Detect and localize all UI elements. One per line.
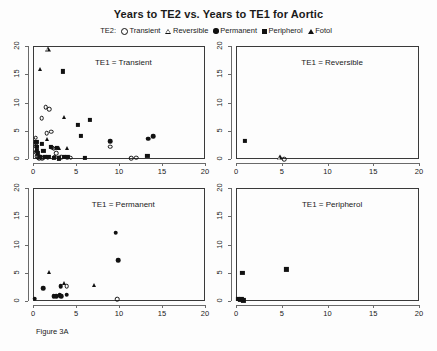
y-tick-label: 20 (215, 39, 224, 53)
x-tick (205, 305, 206, 308)
y-tick-label: 0 (215, 152, 224, 166)
data-point-filled-square-icon (284, 267, 288, 271)
data-point-filled-square-icon (41, 149, 45, 153)
data-point-open-circle-icon (49, 130, 54, 135)
legend-entry-fotol: Fotol (308, 26, 332, 35)
data-point-filled-triangle-icon (45, 137, 49, 141)
x-tick-label: 15 (155, 309, 169, 318)
x-tick-label: 20 (198, 309, 212, 318)
y-tick (25, 46, 28, 47)
x-tick (328, 305, 329, 308)
legend-label-fotol: Fotol (315, 26, 332, 35)
y-tick-label: 5 (215, 123, 224, 137)
legend-entry-reversible: Reversible (165, 26, 208, 35)
x-tick-label: 0 (26, 309, 40, 318)
data-point-filled-triangle-icon (65, 146, 69, 150)
data-point-filled-triangle-icon (92, 283, 96, 287)
x-tick-label: 20 (198, 167, 212, 176)
x-tick-label: 0 (229, 167, 243, 176)
page-title: Years to TE2 vs. Years to TE1 for Aortic (0, 8, 437, 20)
panel-title: TE1 = Transient (85, 58, 162, 67)
data-point-filled-square-icon (240, 271, 244, 275)
x-tick-label: 0 (229, 309, 243, 318)
legend-entry-permanent: Permanent (213, 26, 257, 35)
data-point-open-triangle-icon (277, 155, 283, 160)
data-point-open-circle-icon (39, 116, 44, 121)
y-tick-label: 20 (12, 39, 21, 53)
y-tick-label: 10 (12, 237, 21, 251)
x-tick (162, 305, 163, 308)
legend-label-reversible: Reversible (173, 26, 208, 35)
data-point-filled-square-icon (57, 156, 61, 160)
figure-canvas: Years to TE2 vs. Years to TE1 for Aortic… (0, 0, 437, 351)
x-tick (236, 163, 237, 166)
y-tick-label: 15 (215, 209, 224, 223)
legend-entry-transient: Transient (121, 26, 161, 35)
x-tick (33, 305, 34, 308)
x-tick (33, 163, 34, 166)
x-tick-label: 15 (366, 309, 380, 318)
data-point-filled-square-icon (61, 69, 65, 73)
data-point-filled-circle-icon (32, 296, 37, 301)
data-point-filled-square-icon (34, 140, 38, 144)
data-point-filled-square-icon (38, 155, 42, 159)
data-point-filled-square-icon (40, 142, 44, 146)
x-tick (119, 163, 120, 166)
data-point-filled-circle-icon (151, 134, 156, 139)
x-tick-label: 15 (155, 167, 169, 176)
y-tick (228, 188, 231, 189)
data-point-filled-square-icon (49, 145, 53, 149)
x-tick (282, 163, 283, 166)
data-point-open-circle-icon (47, 107, 52, 112)
y-axis-line (28, 46, 29, 159)
x-tick-label: 10 (321, 167, 335, 176)
x-tick-label: 15 (366, 167, 380, 176)
y-axis-line (28, 188, 29, 301)
y-tick-label: 15 (12, 209, 21, 223)
x-tick (419, 305, 420, 308)
y-tick (25, 103, 28, 104)
y-tick-label: 10 (215, 95, 224, 109)
data-point-filled-square-icon (65, 155, 69, 159)
x-tick (419, 163, 420, 166)
filled-triangle-icon (308, 29, 314, 34)
data-point-open-triangle-icon (45, 46, 51, 51)
y-tick-label: 15 (215, 67, 224, 81)
data-point-filled-square-icon (76, 123, 80, 127)
y-axis-line (231, 46, 232, 159)
y-tick-label: 15 (12, 67, 21, 81)
y-tick (228, 46, 231, 47)
x-tick (373, 163, 374, 166)
data-point-filled-triangle-icon (38, 67, 42, 71)
data-point-filled-triangle-icon (62, 115, 66, 119)
data-point-filled-circle-icon (116, 258, 121, 263)
x-tick-label: 10 (112, 309, 126, 318)
y-tick (25, 188, 28, 189)
data-point-filled-triangle-icon (62, 281, 66, 285)
data-point-filled-circle-icon (41, 286, 46, 291)
legend-label-permanent: Permanent (220, 26, 257, 35)
y-tick-label: 20 (215, 181, 224, 195)
y-tick (25, 301, 28, 302)
x-tick (76, 163, 77, 166)
data-point-filled-triangle-icon (57, 146, 61, 150)
y-tick (228, 216, 231, 217)
x-tick-label: 20 (412, 309, 426, 318)
x-tick (162, 163, 163, 166)
panel-title: TE1 = Reversible (291, 58, 373, 67)
y-tick (25, 245, 28, 246)
legend-entry-peripherol: Peripherol (262, 26, 303, 35)
x-tick-label: 5 (69, 309, 83, 318)
y-tick (228, 159, 231, 160)
data-point-open-circle-icon (134, 156, 139, 161)
x-tick-label: 10 (112, 167, 126, 176)
x-tick-label: 20 (412, 167, 426, 176)
y-tick (228, 103, 231, 104)
x-tick-label: 5 (275, 309, 289, 318)
y-tick (228, 131, 231, 132)
filled-circle-icon (213, 28, 218, 33)
y-tick-label: 10 (12, 95, 21, 109)
x-tick-label: 0 (26, 167, 40, 176)
x-tick-label: 5 (69, 167, 83, 176)
data-point-filled-circle-icon (108, 139, 113, 144)
